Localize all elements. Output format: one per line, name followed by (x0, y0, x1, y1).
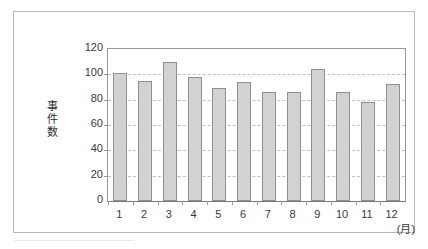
x-axis-tick-mark (232, 201, 233, 205)
bars-layer (108, 49, 405, 201)
y-axis-tick-labels: 020406080100120 (63, 12, 103, 249)
x-axis-tick-mark (331, 201, 332, 205)
y-axis-tick-label: 40 (67, 143, 103, 154)
x-axis-tick-label: 7 (256, 208, 281, 220)
x-axis-tick-mark (108, 201, 109, 205)
x-axis-tick-label: 4 (181, 208, 206, 220)
y-axis-tick-mark (104, 74, 108, 75)
bar-slot (133, 49, 158, 201)
bar-slot (158, 49, 183, 201)
x-axis-tick-labels: 123456789101112 (107, 208, 406, 224)
bar (237, 82, 251, 201)
y-axis-tick-mark (104, 125, 108, 126)
y-axis-tick-label: 100 (67, 67, 103, 78)
bar (386, 84, 400, 201)
x-axis-tick-mark (133, 201, 134, 205)
y-axis-tick-label: 120 (67, 42, 103, 53)
plot-area (107, 48, 406, 202)
bar (336, 92, 350, 201)
bar-slot (207, 49, 232, 201)
x-axis-tick-mark (380, 201, 381, 205)
x-axis-unit-label: (月) (390, 223, 422, 235)
x-axis-tick-label: 3 (157, 208, 182, 220)
x-axis-tick-label: 6 (231, 208, 256, 220)
y-axis-tick-label: 20 (67, 169, 103, 180)
bar (287, 92, 301, 201)
x-axis-tick-label: 1 (107, 208, 132, 220)
y-axis-tick-label: 80 (67, 93, 103, 104)
bar-slot (182, 49, 207, 201)
x-axis-tick-mark (306, 201, 307, 205)
bar-slot (306, 49, 331, 201)
bar-slot (331, 49, 356, 201)
y-axis-title: 事 件 数 (44, 100, 60, 139)
bar (113, 73, 127, 201)
x-axis-tick-label: 8 (280, 208, 305, 220)
bar (361, 102, 375, 201)
x-axis-tick-label: 11 (355, 208, 380, 220)
x-axis-tick-label: 10 (330, 208, 355, 220)
x-axis-tick-label: 9 (305, 208, 330, 220)
bar (212, 88, 226, 201)
bar (188, 77, 202, 201)
x-axis-tick-label: 5 (206, 208, 231, 220)
y-axis-title-char-2: 件 (44, 113, 60, 126)
x-axis-tick-label: 2 (132, 208, 157, 220)
bar-slot (257, 49, 282, 201)
y-axis-tick-mark (104, 150, 108, 151)
x-axis-tick-label: 12 (379, 208, 404, 220)
bar (163, 62, 177, 201)
bar-slot (232, 49, 257, 201)
bar-slot (281, 49, 306, 201)
bar (311, 69, 325, 201)
x-axis-tick-mark (182, 201, 183, 205)
y-axis-tick-label: 0 (67, 194, 103, 205)
x-axis-tick-mark (158, 201, 159, 205)
y-axis-title-char-1: 事 (44, 100, 60, 113)
chart-figure-root: 事 件 数 020406080100120 123456789101112 (月… (0, 0, 428, 249)
x-axis-tick-mark (281, 201, 282, 205)
bar-slot (356, 49, 381, 201)
y-axis-tick-mark (104, 100, 108, 101)
x-axis-tick-mark (207, 201, 208, 205)
bar (138, 81, 152, 201)
bar (262, 92, 276, 201)
figure-frame-border: 事 件 数 020406080100120 123456789101112 (月… (13, 11, 415, 233)
x-axis-tick-mark (356, 201, 357, 205)
y-axis-title-char-3: 数 (44, 126, 60, 139)
bar-slot (380, 49, 405, 201)
x-axis-tick-mark (257, 201, 258, 205)
bar-slot (108, 49, 133, 201)
y-axis-tick-mark (104, 176, 108, 177)
y-axis-tick-label: 60 (67, 118, 103, 129)
